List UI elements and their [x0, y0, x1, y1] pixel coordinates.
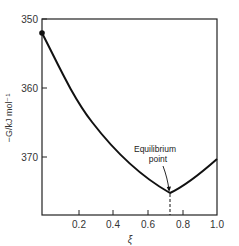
x-axis-label: ξ — [128, 234, 133, 246]
x-tick-0.2: 0.2 — [72, 219, 86, 230]
y-axis-label: −G/kJ mol⁻¹ — [4, 94, 14, 143]
gibbs-energy-chart: 350 360 370 0.2 0.4 0.6 0.8 1.0 ξ −G/kJ … — [0, 0, 239, 246]
gibbs-curve — [42, 33, 217, 193]
annotation-arrow — [163, 166, 169, 190]
annotation-point: point — [149, 154, 168, 164]
y-tick-370: 370 — [21, 152, 38, 163]
start-point-marker — [39, 30, 45, 36]
annotation-equilibrium: Equilibrium — [134, 144, 176, 154]
x-tick-1.0: 1.0 — [210, 219, 224, 230]
x-axis-ticks — [79, 210, 183, 215]
y-tick-350: 350 — [21, 14, 38, 25]
y-tick-360: 360 — [21, 83, 38, 94]
x-tick-0.6: 0.6 — [141, 219, 155, 230]
x-tick-0.4: 0.4 — [106, 219, 120, 230]
plot-frame — [42, 19, 217, 215]
x-tick-0.8: 0.8 — [176, 219, 190, 230]
